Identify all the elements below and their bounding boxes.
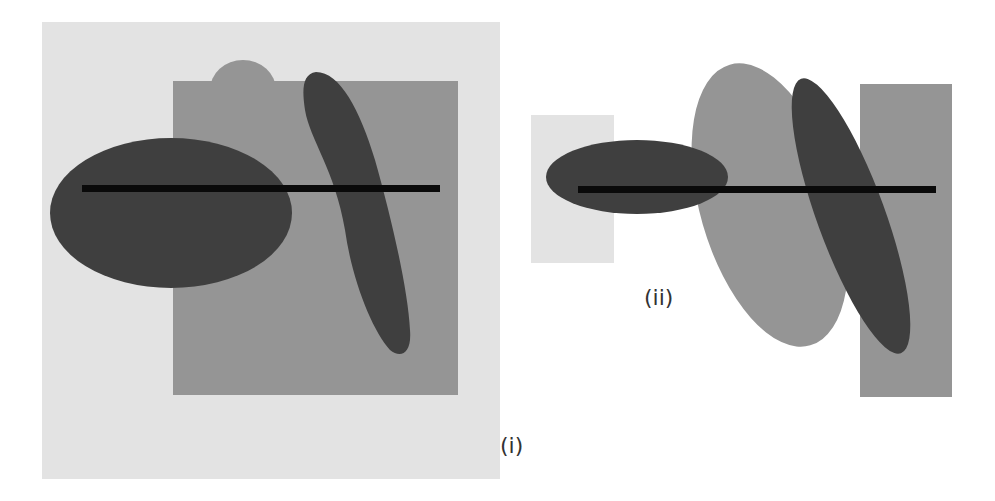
panel-ii xyxy=(531,45,952,397)
panel-i-dark-ellipse xyxy=(50,138,292,288)
panel-i-black-line xyxy=(82,185,440,192)
panel-i xyxy=(42,22,500,479)
panel-label-i: (i) xyxy=(500,433,523,458)
panel-ii-dark-ellipse xyxy=(546,140,728,214)
panel-ii-black-line xyxy=(578,186,936,193)
panel-label-ii: (ii) xyxy=(644,285,673,310)
diagram-canvas xyxy=(0,0,995,501)
